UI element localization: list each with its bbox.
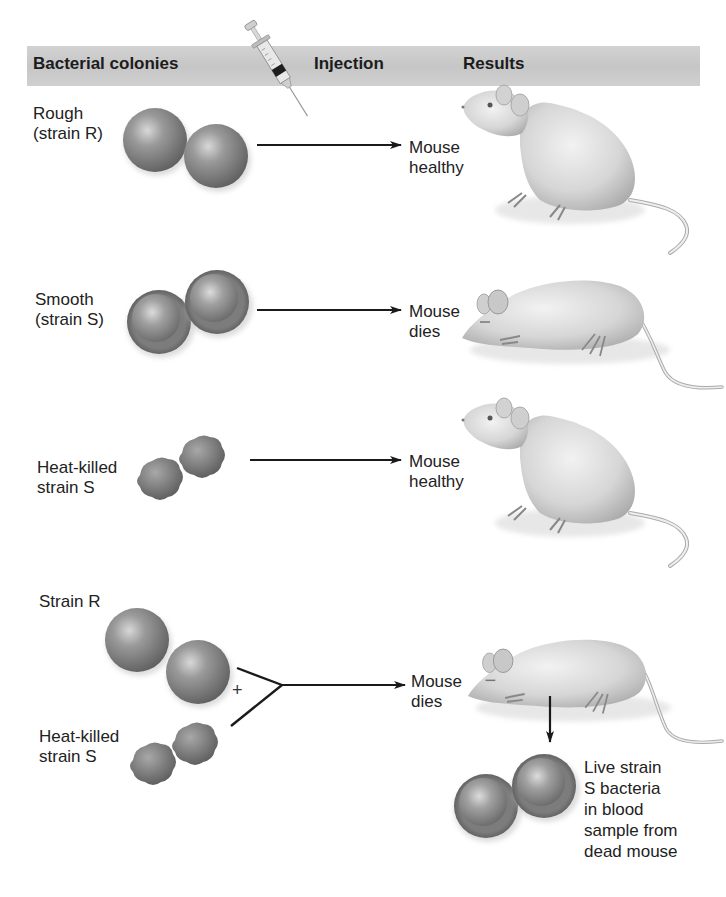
arrow-row1 — [255, 140, 405, 150]
result-label-row4: Mouse dies — [411, 672, 462, 712]
arrow-down-blood-sample — [544, 696, 556, 746]
mouse-healthy-icon — [460, 85, 720, 265]
colony-label-strain-r: Strain R — [39, 592, 100, 612]
arrow-row2 — [255, 305, 405, 315]
header-bacterial-colonies: Bacterial colonies — [33, 54, 179, 74]
colony-label-heat-killed-2: Heat-killed strain S — [39, 727, 119, 767]
arrow-row3 — [248, 455, 405, 465]
combine-arrow — [225, 660, 410, 760]
rough-bacteria-icon — [120, 100, 260, 190]
mouse-healthy-icon — [460, 398, 720, 578]
heat-killed-bacteria-icon — [125, 718, 235, 798]
smooth-bacteria-icon — [125, 264, 265, 364]
colony-label-smooth: Smooth (strain S) — [35, 290, 104, 330]
result-label-row2: Mouse dies — [409, 302, 460, 342]
header-injection: Injection — [314, 54, 384, 74]
result-label-row3: Mouse healthy — [409, 452, 464, 492]
result-label-row1: Mouse healthy — [409, 138, 464, 178]
mouse-dead-icon — [466, 630, 726, 760]
heat-killed-bacteria-icon — [130, 435, 240, 515]
mouse-dead-icon — [460, 272, 726, 402]
header-results: Results — [463, 54, 524, 74]
colony-label-rough: Rough (strain R) — [33, 104, 103, 144]
live-strain-s-bacteria-icon — [452, 748, 592, 848]
blood-sample-label: Live strain S bacteria in blood sample f… — [584, 757, 678, 862]
colony-label-heat-killed: Heat-killed strain S — [37, 458, 117, 498]
rough-bacteria-icon — [100, 600, 240, 710]
